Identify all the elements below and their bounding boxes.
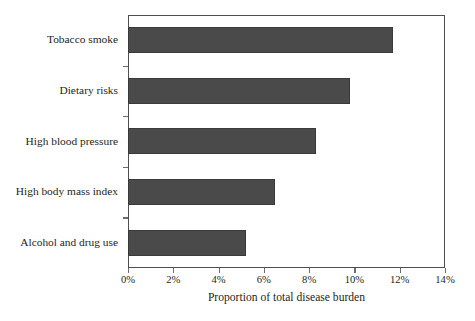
bar (128, 128, 316, 154)
value-axis-tick-label: 2% (166, 274, 180, 286)
bar-row (128, 116, 445, 167)
category-axis-tick (123, 167, 128, 168)
bar (128, 179, 275, 205)
category-axis-tick (123, 217, 128, 218)
category-label: Alcohol and drug use (0, 236, 118, 249)
category-label: Tobacco smoke (0, 33, 118, 46)
value-axis-tick-label: 14% (435, 274, 454, 286)
value-axis-tick (219, 268, 220, 273)
value-axis-tick (309, 268, 310, 273)
value-axis-tick-label: 4% (212, 274, 226, 286)
value-axis-tick-label: 6% (257, 274, 271, 286)
value-axis-tick-label: 8% (302, 274, 316, 286)
category-axis-tick (123, 116, 128, 117)
category-axis-labels: Tobacco smokeDietary risksHigh blood pre… (0, 15, 124, 268)
x-axis-title: Proportion of total disease burden (128, 291, 445, 305)
value-axis-tick (173, 268, 174, 273)
category-label: High blood pressure (0, 135, 118, 148)
value-axis-tick (128, 268, 129, 273)
bar-row (128, 15, 445, 66)
value-axis-tick (264, 268, 265, 273)
bar-row (128, 167, 445, 218)
value-axis-tick (354, 268, 355, 273)
value-axis-tick (445, 268, 446, 273)
value-axis-tick-label: 10% (345, 274, 364, 286)
category-axis-tick (123, 66, 128, 67)
bar (128, 78, 350, 104)
bar-row (128, 217, 445, 268)
value-axis-tick-label: 12% (390, 274, 409, 286)
bar (128, 27, 393, 53)
category-label: High body mass index (0, 185, 118, 198)
bar (128, 230, 246, 256)
bars-layer (128, 15, 445, 268)
value-axis-tick-label: 0% (121, 274, 135, 286)
category-label: Dietary risks (0, 84, 118, 97)
bar-row (128, 66, 445, 117)
value-axis-tick (400, 268, 401, 273)
bar-chart-figure: Tobacco smokeDietary risksHigh blood pre… (0, 0, 475, 321)
